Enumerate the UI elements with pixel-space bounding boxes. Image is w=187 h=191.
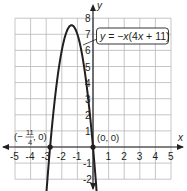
x-tick-label: 2 [121,151,127,162]
root-left-label-open: (− [14,131,23,142]
y-tick-label: -2 [83,174,92,185]
equation-part: (4 [129,30,138,42]
x-axis-label: x [177,132,184,143]
y-tick-label: 5 [85,62,91,73]
x-tick-label: -1 [72,151,81,162]
y-axis-arrow-up-icon [90,4,96,11]
y-tick-label: 7 [85,29,91,40]
equation-label: y = −x(4x + 11) [99,30,170,42]
equation-eq: = [105,30,117,42]
y-axis-label: y [96,0,103,11]
equation-part: + 11) [143,30,169,42]
x-tick-label: -5 [10,151,19,162]
x-tick-label: 4 [152,151,158,162]
x-tick-label: 3 [137,151,143,162]
y-tick-label: 8 [85,13,91,24]
y-tick-label: 1 [85,126,91,137]
root-point-left [48,144,53,149]
x-tick-label: 5 [168,151,174,162]
y-tick-label: -1 [83,158,92,169]
root-left-denominator: 4 [28,138,32,147]
y-tick-label: 6 [85,45,91,56]
x-axis-arrow-right-icon [177,144,184,150]
x-axis-arrow-left-icon [2,144,9,150]
x-tick-label: -4 [26,151,35,162]
parabola-graph: xy-5-4-3-2-112345-2-112345678 y = −x(4x … [0,0,187,191]
x-tick-label: 1 [106,151,112,162]
x-tick-label: -2 [57,151,66,162]
root-point-origin [90,144,95,149]
root-left-label-close: , 0) [33,131,47,142]
root-origin-label: (0, 0) [97,132,119,143]
